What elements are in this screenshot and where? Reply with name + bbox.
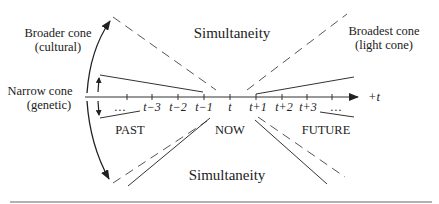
future-label: FUTURE bbox=[302, 123, 351, 137]
broadest-cone-sublabel: (light cone) bbox=[355, 38, 413, 52]
tick-label: … bbox=[331, 100, 342, 114]
broadest-cone-label: Broadest cone bbox=[348, 24, 420, 38]
cone-diagram: +t … t−3 t−2 t−1 t t+1 t+2 t+3 … PAST NO… bbox=[0, 0, 439, 204]
broader-cone-sublabel: (cultural) bbox=[35, 40, 82, 54]
diagram-canvas: +t … t−3 t−2 t−1 t t+1 t+2 t+3 … PAST NO… bbox=[0, 0, 439, 204]
tick-label: t−3 bbox=[143, 100, 160, 114]
narrow-future-upper-line bbox=[256, 77, 354, 94]
broader-cone-label: Broader cone bbox=[25, 26, 92, 40]
simultaneity-top-label: Simultaneity bbox=[194, 25, 271, 41]
past-label: PAST bbox=[115, 123, 145, 137]
broader-cone-arrows bbox=[87, 21, 110, 179]
tick-label: t bbox=[228, 100, 232, 114]
now-label: NOW bbox=[215, 123, 245, 137]
time-axis: +t … t−3 t−2 t−1 t t+1 t+2 t+3 … bbox=[85, 90, 380, 114]
tick-label: … bbox=[115, 100, 126, 114]
curved-arrow-down-icon bbox=[87, 101, 109, 179]
narrow-past-upper-line bbox=[100, 75, 203, 92]
axis-label: +t bbox=[368, 90, 380, 104]
tick-label: t+1 bbox=[249, 100, 266, 114]
tick-label: t−2 bbox=[169, 100, 186, 114]
tick-label: t+3 bbox=[299, 100, 316, 114]
simultaneity-bottom-label: Simultaneity bbox=[189, 167, 266, 183]
tick-label: t−1 bbox=[195, 100, 212, 114]
narrow-cone-sublabel: (genetic) bbox=[27, 98, 71, 112]
tick-label: t+2 bbox=[275, 100, 292, 114]
narrow-cone-label: Narrow cone bbox=[8, 84, 73, 98]
arrow-down-icon bbox=[98, 101, 99, 115]
arrow-up-icon bbox=[98, 78, 99, 92]
